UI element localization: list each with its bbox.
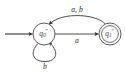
automaton-figure: q0″ q1″ a, b a b [0,0,125,73]
q1-state[interactable]: q1″ [99,23,121,45]
q0-state[interactable]: q0″ [33,23,55,45]
transition-q1-to-q0 [49,16,106,25]
start-arrow [5,32,33,36]
automaton-canvas: q0″ q1″ a, b a b [0,0,125,73]
transition-q0-self-loop-arc [33,43,56,61]
transition-label-self-loop: b [43,62,47,71]
transition-q1-to-q0-arc [51,16,106,25]
transition-label-middle: a [75,36,79,45]
transition-label-top: a, b [71,5,83,14]
